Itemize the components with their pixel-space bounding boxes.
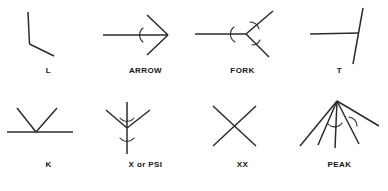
junction-cell-fork: FORK [194,0,291,95]
t-junction-diagram [291,0,388,70]
peak-junction-diagram [291,96,388,166]
k-junction-diagram [0,96,97,166]
junction-grid: L ARROW [0,0,388,191]
arrow-junction-diagram [97,0,194,70]
junction-label-arrow: ARROW [97,66,194,76]
junction-types-figure: L ARROW [0,0,388,191]
l-junction-diagram [0,0,97,70]
junction-cell-t: T [291,0,388,95]
xx-junction-diagram [194,96,291,166]
junction-label-xx: XX [194,160,291,170]
junction-cell-l: L [0,0,97,95]
junction-label-x-or-psi: X or PSI [97,160,194,170]
junction-label-peak: PEAK [291,160,388,170]
junction-cell-x-or-psi: X or PSI [97,96,194,191]
junction-cell-peak: PEAK [291,96,388,191]
junction-cell-k: K [0,96,97,191]
junction-label-t: T [291,66,388,76]
junction-cell-arrow: ARROW [97,0,194,95]
junction-label-l: L [0,66,97,76]
junction-label-k: K [0,160,97,170]
junction-label-fork: FORK [194,66,291,76]
x-or-psi-junction-diagram [97,96,194,166]
junction-cell-xx: XX [194,96,291,191]
fork-junction-diagram [194,0,291,70]
